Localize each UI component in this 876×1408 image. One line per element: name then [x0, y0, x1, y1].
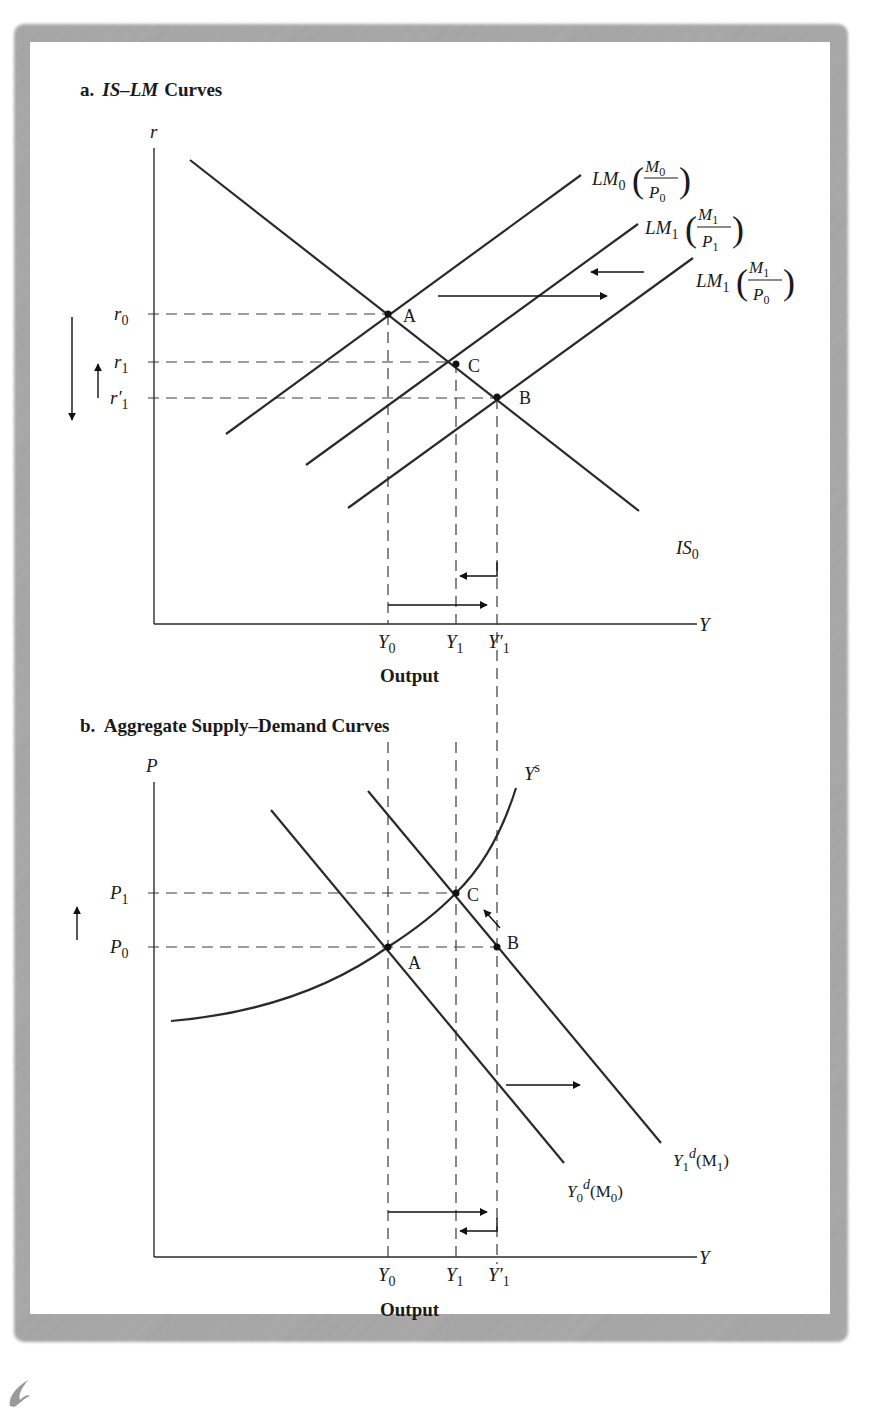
label-is0: IS0: [675, 537, 699, 562]
point-c-dot: [453, 361, 460, 368]
curve-lm1-m1-p1: [306, 224, 638, 465]
tick-b-y1-prime: Y′1: [488, 1264, 510, 1289]
panel-a-x-caption: Output: [380, 665, 440, 686]
point-b-dot: [494, 394, 501, 401]
svg-text:(: (: [685, 209, 697, 249]
svg-text:(: (: [632, 160, 644, 200]
panel-a-title: a.IS–LMCurves: [80, 79, 222, 100]
svg-text:): ): [783, 262, 795, 302]
label-y1d: Y1d(M1): [673, 1146, 729, 1174]
label-y0d: Y0d(M0): [567, 1177, 623, 1205]
panel-b-title: b. Aggregate Supply–Demand Curves: [80, 715, 389, 736]
svg-text:LM0: LM0: [591, 168, 625, 193]
svg-text:M1: M1: [748, 258, 769, 280]
label-lm1-m1-p0: LM1 ( M1 P0 ): [695, 258, 795, 307]
point-b-c-label: C: [467, 885, 479, 905]
panel-b-x-axis-label: Y: [699, 1247, 712, 1268]
panel-a-is-lm: a.IS–LMCurves r Y A C B r0 r1 r′1 Y0 Y1 …: [72, 79, 795, 1264]
point-a-label: A: [403, 306, 416, 326]
tick-p1: P1: [109, 882, 129, 907]
tick-r1: r1: [114, 351, 128, 376]
point-b-label: B: [519, 388, 531, 408]
arrow-y-left: [460, 562, 497, 576]
point-c-label: C: [468, 356, 480, 376]
tick-b-y0: Y0: [378, 1264, 396, 1289]
tick-r0: r0: [114, 303, 128, 328]
panel-b-aggregate-supply-demand: b. Aggregate Supply–Demand Curves P Y A …: [77, 715, 729, 1320]
svg-text:(: (: [736, 262, 748, 302]
label-lm0: LM0 ( M0 P0 ): [591, 157, 691, 205]
svg-text:P0: P0: [648, 183, 665, 205]
point-b-b-label: B: [507, 933, 519, 953]
svg-text:LM1: LM1: [695, 270, 729, 295]
point-b-a-dot: [385, 944, 392, 951]
svg-text:LM1: LM1: [644, 217, 678, 242]
svg-text:): ): [679, 160, 691, 200]
tick-p0: P0: [109, 936, 129, 961]
tick-y1-prime: Y′1: [488, 631, 510, 656]
tick-y1: Y1: [446, 631, 464, 656]
point-b-c-dot: [453, 890, 460, 897]
svg-text:P1: P1: [701, 232, 718, 254]
panel-b-y-axis-label: P: [145, 755, 158, 776]
label-ys: Ys: [524, 760, 540, 784]
svg-text:): ): [732, 209, 744, 249]
point-b-b-dot: [494, 944, 501, 951]
figure-canvas: a.IS–LMCurves r Y A C B r0 r1 r′1 Y0 Y1 …: [0, 0, 876, 1408]
label-lm1-m1-p1: LM1 ( M1 P1 ): [644, 205, 744, 254]
point-a-dot: [385, 311, 392, 318]
arrow-b-y-left: [460, 1218, 497, 1231]
publisher-logo-icon: [4, 1378, 44, 1408]
tick-r1-prime: r′1: [110, 387, 129, 412]
panel-a-y-axis-label: r: [150, 121, 158, 142]
tick-y0: Y0: [378, 631, 396, 656]
tick-b-y1: Y1: [446, 1264, 464, 1289]
panel-b-x-caption: Output: [380, 1299, 440, 1320]
svg-text:M1: M1: [697, 205, 718, 227]
svg-text:P0: P0: [752, 285, 769, 307]
point-b-a-label: A: [408, 953, 421, 973]
panel-a-x-axis-label: Y: [699, 614, 712, 635]
svg-text:M0: M0: [644, 157, 665, 179]
curve-is0: [190, 160, 639, 511]
curve-ys: [171, 788, 516, 1021]
